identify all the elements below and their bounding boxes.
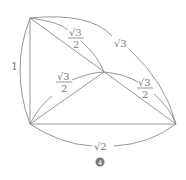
label-bl-center-num: √3 <box>57 71 70 82</box>
geometry-diagram: 1 √3 2 √3 √3 2 √3 2 √2 4 <box>0 0 186 180</box>
label-tl-center-den: 2 <box>73 39 79 50</box>
label-center-br-den: 2 <box>142 89 148 100</box>
label-bl-center-den: 2 <box>61 83 67 94</box>
label-tl-center-num: √3 <box>69 27 82 38</box>
label-bottom: √2 <box>94 141 107 152</box>
label-left: 1 <box>11 60 18 73</box>
figure-number: 4 <box>98 159 102 167</box>
label-tl-br: √3 <box>114 38 127 49</box>
arc-left <box>20 18 30 124</box>
label-center-br-num: √3 <box>138 77 151 88</box>
